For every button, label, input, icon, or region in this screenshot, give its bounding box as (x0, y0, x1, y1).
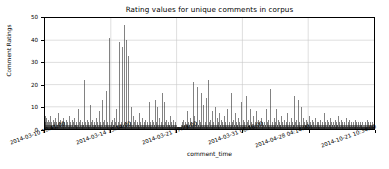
x-axis-tick-labels: 2014-03-10 18:41:00 2014-03-14 15:14:00 … (0, 0, 389, 169)
x-tick-label: 2014-03-14 15:14:00 (75, 120, 132, 146)
x-tick-label: 2014-04-28 04:14:00 (254, 123, 311, 149)
chart-figure: Rating values for unique comments in cor… (0, 0, 389, 169)
x-axis-label: comment_time (44, 150, 375, 158)
x-tick-label: 2014-03-21 17:29:00 (141, 120, 198, 146)
x-tick-label: 2014-10-21 10:34:00 (320, 123, 377, 149)
x-tick-label: 2014-03-10 18:41:00 (9, 120, 66, 146)
